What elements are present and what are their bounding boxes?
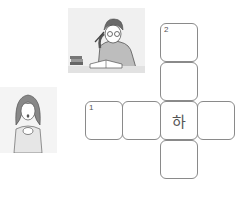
- crossword-cell-down-4[interactable]: [160, 140, 198, 179]
- crossword-cell-across-2[interactable]: [122, 101, 161, 140]
- clue-number-1: 1: [89, 103, 93, 112]
- crossword-cell-across-4[interactable]: [197, 101, 235, 140]
- surprised-girl-icon: [0, 87, 57, 153]
- cell-character: 하: [161, 102, 197, 139]
- crossword-cell-across-1[interactable]: 1: [85, 101, 123, 140]
- clue-number-2: 2: [164, 25, 168, 34]
- crossword-cell-down-1[interactable]: 2: [160, 23, 198, 62]
- crossword-cell-down-2[interactable]: [160, 62, 198, 101]
- man-studying-illustration: [68, 8, 145, 73]
- crossword-cell-intersection[interactable]: 하: [160, 101, 198, 140]
- surprised-girl-illustration: [0, 87, 57, 153]
- man-studying-icon: [68, 8, 145, 73]
